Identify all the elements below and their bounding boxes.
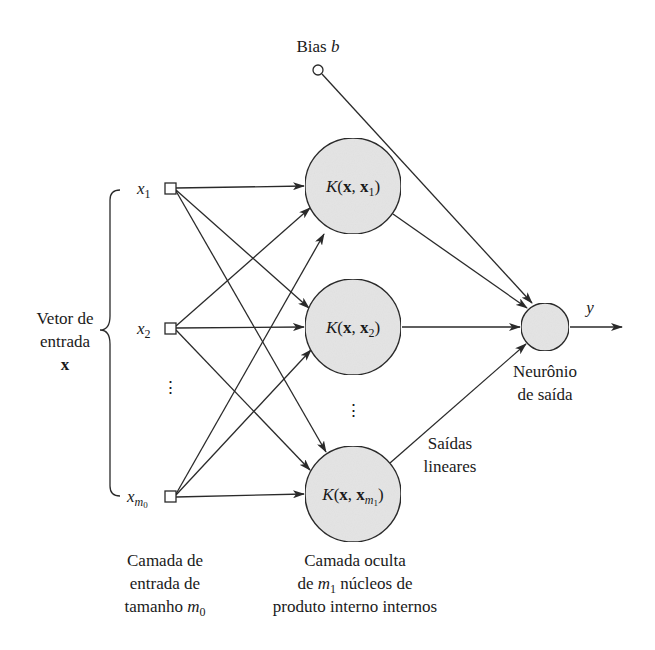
svg-text:de m1 núcleos de: de m1 núcleos de bbox=[297, 574, 412, 596]
svg-text:entrada de: entrada de bbox=[130, 574, 200, 593]
svg-text:Saídas: Saídas bbox=[428, 434, 472, 453]
hidden-to-output-connections bbox=[322, 74, 622, 463]
hidden-node-2: K(x, x2) bbox=[305, 279, 401, 375]
input-layer-caption: Camada de entrada de tamanho m0 bbox=[124, 551, 205, 619]
svg-text:x1: x1 bbox=[136, 179, 151, 201]
hidden-node-1: K(x, x1) bbox=[305, 138, 401, 234]
output-neuron: y Neurônio de saída bbox=[513, 298, 594, 404]
kernel-network-diagram: Bias b Vetor de entrada x x1 x2 ⋮ xm0 K(… bbox=[0, 0, 655, 650]
output-y-label: y bbox=[584, 298, 594, 317]
svg-text:lineares: lineares bbox=[424, 457, 477, 476]
svg-text:entrada: entrada bbox=[40, 332, 90, 351]
svg-text:xm0: xm0 bbox=[126, 487, 148, 510]
input-vector-brace bbox=[100, 190, 120, 496]
svg-text:x2: x2 bbox=[136, 319, 151, 341]
svg-text:de saída: de saída bbox=[517, 385, 573, 404]
input-node-xm0: xm0 bbox=[126, 487, 176, 510]
bias-node: Bias b bbox=[297, 37, 340, 75]
bias-label: Bias b bbox=[297, 37, 340, 56]
hidden-ellipsis: ⋮ bbox=[345, 401, 362, 420]
input-vector-label: Vetor de entrada x bbox=[36, 309, 93, 374]
svg-text:produto interno internos: produto interno internos bbox=[273, 597, 437, 616]
svg-text:Camada oculta: Camada oculta bbox=[304, 551, 406, 570]
input-ellipsis: ⋮ bbox=[162, 378, 179, 397]
hidden-layer-caption: Camada oculta de m1 núcleos de produto i… bbox=[273, 551, 437, 616]
svg-text:Vetor de: Vetor de bbox=[36, 309, 93, 328]
input-node-x1: x1 bbox=[136, 179, 176, 201]
input-to-hidden-connections bbox=[176, 186, 326, 497]
hidden-node-m1: K(x, xm1) bbox=[305, 446, 401, 542]
svg-text:x: x bbox=[61, 355, 70, 374]
linear-outputs-label: Saídas lineares bbox=[424, 434, 477, 476]
svg-text:Neurônio: Neurônio bbox=[513, 362, 577, 381]
input-node-x2: x2 bbox=[136, 319, 176, 341]
svg-text:tamanho m0: tamanho m0 bbox=[124, 597, 205, 619]
svg-text:Camada de: Camada de bbox=[127, 551, 203, 570]
